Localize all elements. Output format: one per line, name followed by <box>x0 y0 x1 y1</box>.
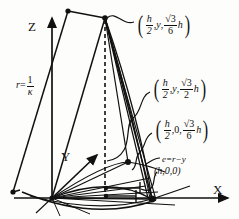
paren-open: ( <box>156 119 161 140</box>
paren-open: ( <box>138 14 143 35</box>
low-x-num: h <box>164 119 171 130</box>
coordinate-label-top: ( h 2 , y , √3 6 h ) <box>136 14 191 36</box>
paren-close: ) <box>203 119 208 140</box>
axis-label-x: X <box>213 183 222 196</box>
low-z-suffix: h <box>196 125 201 135</box>
paren-open: ( <box>154 78 159 99</box>
radius-denominator: κ <box>27 86 34 98</box>
top-z-den: 6 <box>164 25 177 37</box>
upper-left-point <box>65 8 70 13</box>
mid-z-suffix: h <box>194 84 199 94</box>
low-comma-2: , <box>179 125 182 135</box>
mid-x-num: h <box>162 78 169 89</box>
low-radicand: 3 <box>189 118 194 129</box>
apex-point <box>102 15 108 21</box>
radius-label: r= 1 κ <box>16 75 35 97</box>
geometry-figure: Z Y X r= 1 κ ( h 2 , y , √3 6 h ) ( h 2 <box>0 0 239 219</box>
paren-close: ) <box>184 14 189 35</box>
coordinate-label-h: (h,0,0) <box>154 166 181 176</box>
top-comma-2: , <box>161 20 164 30</box>
mid-comma-2: , <box>177 84 180 94</box>
lower-left-point <box>10 189 15 194</box>
mid-curve-point <box>125 159 131 165</box>
axis-label-y: Y <box>61 150 70 163</box>
point-markers <box>10 8 155 202</box>
x-axis-node <box>149 196 156 203</box>
top-radicand: 3 <box>171 13 176 24</box>
top-z-suffix: h <box>178 20 183 30</box>
low-z-den: 6 <box>183 130 196 142</box>
radius-numerator: 1 <box>27 75 34 86</box>
mid-radicand: 3 <box>187 77 192 88</box>
origin-point <box>49 195 54 200</box>
mid-x-den: 2 <box>162 89 169 101</box>
mid-z-den: 2 <box>180 89 193 101</box>
eccentricity-label: e=r−y <box>162 155 186 164</box>
low-x-den: 2 <box>164 130 171 142</box>
cone-edges <box>52 18 156 200</box>
radius-lines <box>13 11 105 192</box>
top-x-num: h <box>146 14 153 25</box>
curve-arcs <box>22 18 190 209</box>
coordinate-label-mid: ( h 2 , y , √3 2 h ) <box>152 78 207 100</box>
radius-equals: = <box>20 79 26 90</box>
paren-close: ) <box>200 78 205 99</box>
axis-label-z: Z <box>28 20 36 33</box>
top-x-den: 2 <box>146 25 153 37</box>
coordinate-label-low: ( h 2 , 0 , √3 6 h ) <box>154 119 210 141</box>
